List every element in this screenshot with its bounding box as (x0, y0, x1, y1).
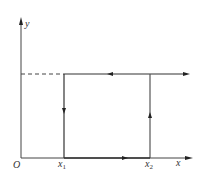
left-down-arrow-icon (62, 108, 66, 114)
diagram: y x O x1 x2 (0, 0, 200, 182)
tick-x1: x1 (58, 159, 66, 171)
right-up-arrow-icon (148, 112, 152, 118)
y-axis-arrow-icon (19, 17, 23, 25)
diagram-canvas (0, 0, 200, 182)
bottom-right-arrow-icon (122, 156, 128, 160)
top-left-arrow-icon (107, 72, 113, 76)
top-end-arrow-icon (183, 72, 190, 76)
x-axis-label: x (176, 158, 180, 168)
x-axis-arrow-icon (185, 156, 193, 160)
tick-x2: x2 (145, 159, 153, 171)
origin-label: O (13, 160, 20, 170)
y-axis-label: y (25, 19, 29, 29)
